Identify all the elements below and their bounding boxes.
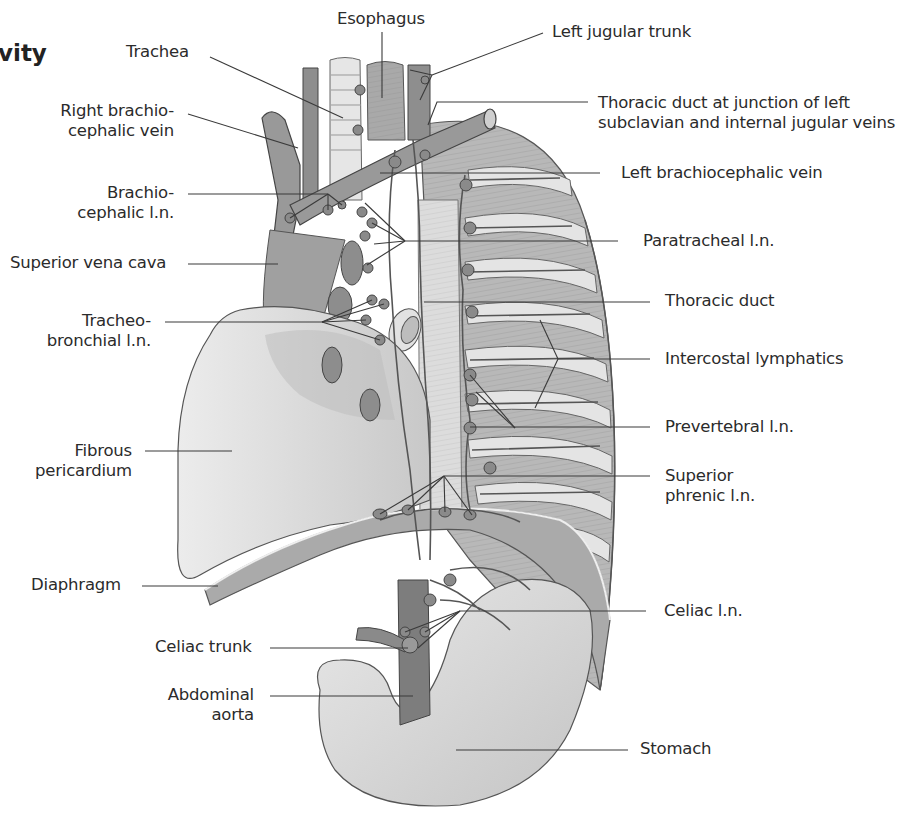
label-fibrous-pericardium: Fibrous pericardium <box>10 441 132 481</box>
label-thoracic-duct-junction: Thoracic duct at junction of left subcla… <box>598 93 895 133</box>
label-brachiocephalic-ln: Brachio- cephalic l.n. <box>40 183 174 223</box>
label-tracheobronchial-ln: Tracheo- bronchial l.n. <box>20 311 151 351</box>
label-trachea: Trachea <box>126 42 189 62</box>
label-paratracheal-ln: Paratracheal l.n. <box>643 231 774 251</box>
anatomy-figure: vity <box>0 0 909 814</box>
label-left-brachiocephalic-vein: Left brachiocephalic vein <box>621 163 823 183</box>
label-intercostal-lymphatics: Intercostal lymphatics <box>665 349 843 369</box>
label-right-brachiocephalic-vein: Right brachio- cephalic vein <box>40 101 174 141</box>
label-stomach: Stomach <box>640 739 711 759</box>
label-left-jugular-trunk: Left jugular trunk <box>552 22 691 42</box>
label-esophagus: Esophagus <box>337 9 425 29</box>
label-superior-phrenic-ln: Superior phrenic l.n. <box>665 466 755 506</box>
label-celiac-ln: Celiac l.n. <box>664 601 743 621</box>
esophagus <box>367 62 405 141</box>
label-prevertebral-ln: Prevertebral l.n. <box>665 417 794 437</box>
label-abdominal-aorta: Abdominal aorta <box>130 685 254 725</box>
label-thoracic-duct: Thoracic duct <box>665 291 774 311</box>
label-celiac-trunk: Celiac trunk <box>155 637 252 657</box>
label-superior-vena-cava: Superior vena cava <box>10 253 166 273</box>
label-diaphragm: Diaphragm <box>31 575 121 595</box>
